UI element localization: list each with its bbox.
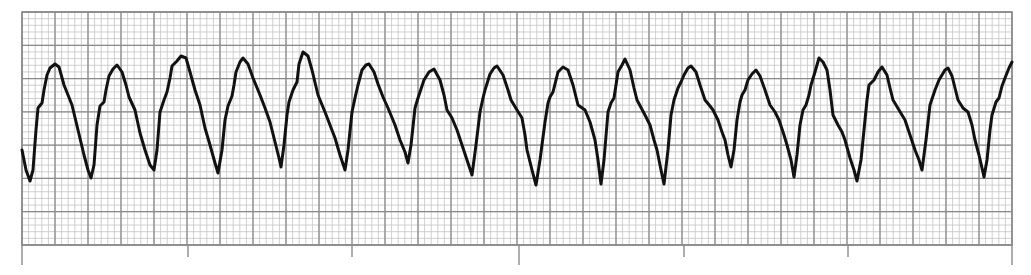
- ecg-chart: [0, 0, 1031, 275]
